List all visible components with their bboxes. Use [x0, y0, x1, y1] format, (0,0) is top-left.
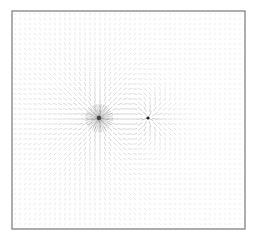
field-arrow: [34, 143, 36, 144]
field-arrow: [44, 188, 45, 190]
field-arrow: [189, 103, 191, 104]
field-arrow: [144, 174, 146, 175]
field-arrow: [50, 218, 51, 220]
field-arrow: [174, 138, 175, 140]
field-arrow: [129, 178, 131, 180]
field-arrow: [29, 173, 31, 175]
field-arrow: [184, 128, 186, 129]
field-arrow: [24, 68, 26, 69]
field-arrow: [104, 137, 105, 141]
field-arrow: [164, 163, 166, 164]
field-arrow: [115, 23, 116, 25]
field-arrow: [194, 169, 196, 170]
field-arrow: [109, 132, 112, 135]
field-arrow: [179, 133, 181, 135]
field-arrow: [153, 122, 156, 125]
field-arrow: [19, 28, 20, 30]
field-arrow: [125, 218, 126, 220]
field-arrow: [29, 134, 32, 135]
field-arrow: [179, 158, 180, 160]
field-arrow: [144, 43, 146, 44]
field-arrow: [180, 78, 181, 80]
field-arrow: [45, 218, 46, 220]
field-arrow: [19, 18, 20, 20]
field-arrow: [29, 63, 31, 65]
field-arrow: [169, 98, 170, 100]
field-arrow: [189, 29, 191, 30]
field-arrow: [105, 33, 106, 35]
field-arrow: [29, 99, 32, 100]
field-arrow: [194, 29, 196, 30]
field-arrow: [179, 68, 181, 69]
field-arrow: [78, 114, 82, 115]
field-arrow: [138, 138, 141, 140]
field-arrow: [54, 73, 56, 75]
field-arrow: [144, 38, 146, 39]
field-arrow: [124, 48, 126, 50]
field-arrow: [144, 59, 146, 60]
field-arrow: [129, 158, 132, 159]
field-arrow: [69, 83, 71, 86]
field-arrow: [24, 203, 25, 205]
field-arrow: [79, 77, 80, 80]
field-arrow: [159, 102, 161, 105]
field-arrow: [138, 128, 141, 131]
field-arrow: [75, 48, 76, 51]
field-arrow: [189, 174, 191, 175]
field-arrow: [100, 63, 101, 66]
field-arrow: [19, 134, 21, 135]
field-arrow: [95, 137, 96, 141]
field-arrow: [219, 84, 220, 85]
field-arrow: [144, 223, 145, 225]
sink-charge-marker: [146, 116, 149, 119]
field-arrow: [144, 198, 146, 199]
field-arrow: [189, 209, 191, 210]
field-arrow: [14, 94, 16, 95]
field-arrow: [184, 214, 186, 215]
field-arrow: [14, 73, 16, 74]
field-arrow: [54, 78, 56, 80]
field-arrow: [184, 169, 186, 170]
field-arrow: [50, 213, 51, 215]
field-arrow: [64, 98, 67, 100]
field-arrow: [129, 163, 132, 164]
field-arrow: [65, 38, 66, 40]
field-arrow: [69, 148, 71, 151]
field-arrow: [114, 178, 115, 180]
field-arrow: [194, 158, 195, 159]
field-arrow: [34, 53, 36, 55]
field-arrow: [44, 63, 46, 65]
field-arrow: [70, 203, 71, 205]
field-arrow: [149, 78, 151, 79]
field-arrow: [215, 88, 216, 89]
field-arrow: [24, 178, 26, 180]
field-arrow: [159, 78, 161, 80]
field-arrow: [174, 68, 176, 69]
field-arrow: [149, 203, 151, 204]
field-arrow: [224, 214, 226, 215]
field-arrow: [144, 23, 145, 24]
field-arrow: [124, 33, 125, 35]
field-arrow: [138, 103, 141, 106]
field-arrow: [144, 208, 145, 209]
field-arrow: [174, 29, 176, 30]
field-arrow: [138, 108, 142, 111]
field-arrow: [174, 34, 176, 35]
field-arrow: [19, 63, 21, 64]
field-arrow: [149, 179, 151, 180]
field-arrow: [34, 193, 35, 195]
field-arrow: [105, 183, 106, 186]
field-arrow: [105, 213, 106, 215]
field-arrow: [49, 188, 50, 190]
field-arrow: [14, 208, 15, 210]
field-arrow: [39, 28, 40, 30]
field-arrow: [115, 223, 116, 225]
field-arrow: [44, 178, 46, 180]
field-arrow: [14, 218, 15, 220]
field-arrow: [159, 34, 161, 35]
field-arrow: [174, 133, 176, 135]
field-arrow: [54, 88, 56, 90]
field-arrow: [73, 123, 77, 124]
field-arrow: [164, 103, 166, 106]
field-arrow: [174, 124, 177, 125]
